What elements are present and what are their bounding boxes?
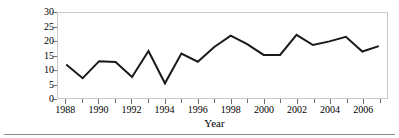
y-tick-label: 15 bbox=[34, 51, 54, 61]
x-tick-label: 2006 bbox=[343, 104, 383, 116]
y-tick-label: 25 bbox=[34, 22, 54, 32]
y-tick-label: 10 bbox=[34, 65, 54, 75]
x-tick-mark-minor bbox=[280, 99, 281, 103]
x-tick-mark-minor bbox=[347, 99, 348, 103]
x-tick-mark-minor bbox=[115, 99, 116, 103]
x-tick-mark-minor bbox=[247, 99, 248, 103]
melting-index-line bbox=[66, 35, 379, 83]
x-tick-mark-minor bbox=[380, 99, 381, 103]
y-axis-title-wrapper: Melting index (km2 x day, millions) bbox=[0, 0, 34, 104]
y-tick-label: 5 bbox=[34, 80, 54, 90]
x-axis-tick-labels: 1988199019921994199619982000200220042006 bbox=[0, 104, 399, 118]
melting-index-chart-figure: Melting index (km2 x day, millions) 0510… bbox=[0, 0, 399, 138]
y-tick-label: 30 bbox=[34, 7, 54, 17]
footer-divider bbox=[4, 134, 395, 135]
x-tick-mark-minor bbox=[148, 99, 149, 103]
x-tick-mark-minor bbox=[82, 99, 83, 103]
x-tick-mark-minor bbox=[314, 99, 315, 103]
x-axis-title: Year bbox=[0, 117, 399, 130]
data-line-svg bbox=[58, 13, 387, 98]
x-tick-mark-minor bbox=[181, 99, 182, 103]
y-tick-label: 20 bbox=[34, 36, 54, 46]
x-tick-mark-minor bbox=[214, 99, 215, 103]
plot-area bbox=[57, 12, 388, 99]
